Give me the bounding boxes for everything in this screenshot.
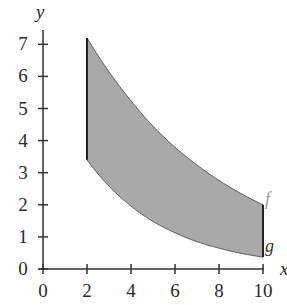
y-tick-label: 3 [18, 162, 28, 183]
x-tick-label: 10 [254, 280, 273, 301]
x-tick-label: 6 [170, 280, 180, 301]
curve-f-label: f [265, 189, 273, 209]
x-tick-label: 8 [214, 280, 224, 301]
y-tick-label: 6 [18, 65, 28, 86]
chart: 0246810 01234567 x y f g [0, 0, 287, 305]
x-tick-label: 2 [82, 280, 92, 301]
curve-g-label: g [265, 236, 274, 256]
y-tick-label: 7 [18, 33, 28, 54]
y-tick-label: 1 [18, 226, 28, 247]
y-tick-label: 5 [18, 98, 28, 119]
y-tick-label: 4 [18, 130, 28, 151]
y-axis-label: y [34, 1, 45, 22]
y-tick-label: 0 [18, 258, 28, 279]
y-tick-label: 2 [18, 194, 28, 215]
x-tick-label: 0 [38, 280, 48, 301]
x-tick-label: 4 [126, 280, 136, 301]
x-axis-label: x [279, 258, 287, 279]
